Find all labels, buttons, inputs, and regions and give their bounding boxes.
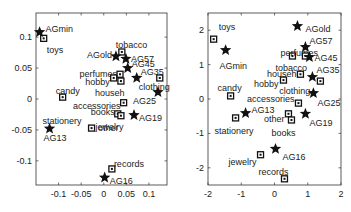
y-tick-label: -1 [196, 128, 204, 138]
x-tick-label: 0 [272, 189, 277, 199]
point-label: toys [219, 22, 236, 32]
square-marker-dot [120, 80, 122, 82]
point-label: stationery [43, 116, 83, 126]
y-tick-label: 0.05 [14, 63, 32, 73]
figure: -0.1-0.0500.050.10.10.050-0.05-0.1toysca… [0, 0, 351, 212]
square-marker-dot [43, 37, 45, 39]
point-label: AG25 [317, 98, 340, 108]
point-label: AG13 [252, 105, 275, 115]
square-marker-dot [120, 115, 122, 117]
x-tick-label: -0.05 [71, 189, 92, 199]
star-marker [128, 109, 139, 120]
y-tick-label: 0.1 [19, 32, 32, 42]
point-label: tobacco [116, 40, 148, 50]
square-marker-dot [287, 113, 289, 115]
square-marker-dot [213, 38, 215, 40]
x-tick-label: 2 [338, 189, 343, 199]
left-scatter-plot: -0.1-0.0500.050.10.10.050-0.05-0.1toysca… [11, 13, 169, 199]
point-label: AG16 [110, 176, 133, 186]
point-label: AG45 [314, 53, 337, 63]
right-scatter-plot: -2-1012210-1-2toysperfumestobaccohousehh… [196, 13, 344, 199]
square-marker-dot [159, 77, 161, 79]
star-marker [220, 44, 231, 55]
square-marker-dot [123, 102, 125, 104]
y-tick-label: 1 [199, 60, 204, 70]
square-marker-dot [119, 73, 121, 75]
point-label: books [91, 107, 116, 117]
point-label: AG57 [309, 36, 332, 46]
point-label: records [258, 167, 289, 177]
point-label: accessories [247, 94, 295, 104]
point-label: AG35 [141, 67, 164, 77]
point-label: hobby [254, 79, 279, 89]
y-tick-label: -0.1 [16, 156, 32, 166]
star-marker [240, 107, 251, 118]
point-label: AG19 [139, 113, 162, 123]
x-tick-label: 0.05 [118, 189, 136, 199]
star-marker [99, 172, 110, 183]
x-tick-label: 0 [101, 189, 106, 199]
point-label: candy [56, 86, 81, 96]
point-label: AG25 [133, 96, 156, 106]
y-tick-label: -2 [196, 163, 204, 173]
square-marker-dot [62, 96, 64, 98]
square-marker-dot [111, 168, 113, 170]
star-marker [292, 20, 303, 31]
point-label: AGmin [220, 61, 248, 71]
point-label: stationery [215, 126, 255, 136]
x-tick-label: -0.1 [51, 189, 67, 199]
point-label: toys [47, 45, 64, 55]
x-tick-label: 0.1 [143, 189, 156, 199]
point-label: AG35 [316, 65, 339, 75]
y-tick-label: 0 [27, 94, 32, 104]
point-label: jewelry [228, 157, 258, 167]
point-label: househ [95, 88, 125, 98]
point-label: AGmin [46, 24, 74, 34]
x-tick-label: -1 [237, 189, 245, 199]
point-label: records [114, 159, 145, 169]
point-label: AGold [87, 50, 112, 60]
point-label: candy [218, 83, 243, 93]
x-tick-label: 1 [305, 189, 310, 199]
square-marker-dot [299, 73, 301, 75]
square-marker-dot [121, 51, 123, 53]
square-marker-dot [290, 119, 292, 121]
square-marker-dot [230, 95, 232, 97]
square-marker-dot [260, 154, 262, 156]
square-marker-dot [235, 117, 237, 119]
y-tick-label: 2 [199, 25, 204, 35]
point-label: AGold [305, 24, 330, 34]
square-marker-dot [113, 77, 115, 79]
y-tick-label: 0 [199, 94, 204, 104]
point-label: jewelry [95, 122, 125, 132]
square-marker-dot [319, 80, 321, 82]
square-marker-dot [91, 127, 93, 129]
point-label: AG13 [44, 133, 67, 143]
x-tick-label: -2 [204, 189, 212, 199]
point-label: AG19 [309, 118, 332, 128]
y-tick-label: -0.05 [11, 125, 32, 135]
square-marker-dot [297, 102, 299, 104]
star-marker [270, 143, 281, 154]
square-marker-dot [283, 178, 285, 180]
point-label: AG16 [282, 152, 305, 162]
point-label: hobby [85, 77, 110, 87]
point-label: books [271, 128, 296, 138]
square-marker-dot [282, 79, 284, 81]
point-label: other [264, 114, 285, 124]
